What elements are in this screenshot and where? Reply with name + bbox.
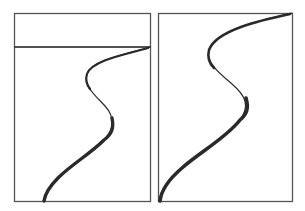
s-curve-diagram — [0, 0, 305, 211]
diagram-figure — [0, 0, 305, 211]
